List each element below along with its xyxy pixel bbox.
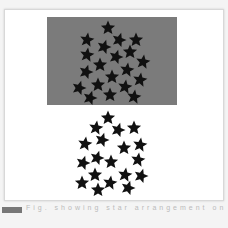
caption: Fig. showing star arrangement on and off… bbox=[0, 204, 228, 228]
star-icon bbox=[80, 65, 94, 79]
star-icon bbox=[123, 45, 137, 59]
star-icon bbox=[91, 151, 105, 165]
star-icon bbox=[101, 111, 115, 125]
star-icon bbox=[103, 176, 117, 190]
star-icon bbox=[78, 137, 92, 151]
star-icon bbox=[91, 183, 105, 197]
star-icon bbox=[89, 121, 103, 135]
star-icon bbox=[117, 141, 131, 155]
star-icon bbox=[73, 81, 87, 95]
star-icon bbox=[118, 80, 132, 94]
caption-text: Fig. showing star arrangement on and off… bbox=[26, 204, 228, 211]
star-pattern-figure bbox=[0, 0, 228, 228]
star-icon bbox=[84, 91, 98, 105]
star-icon bbox=[105, 70, 119, 84]
star-icon bbox=[120, 63, 134, 77]
star-icon bbox=[129, 33, 143, 47]
star-icon bbox=[113, 33, 127, 47]
star-icon bbox=[88, 168, 102, 182]
star-icon bbox=[127, 90, 141, 104]
caption-marker bbox=[2, 207, 22, 213]
star-icon bbox=[93, 58, 107, 72]
star-icon bbox=[96, 133, 110, 147]
star-icon bbox=[131, 153, 145, 167]
star-icon bbox=[127, 121, 141, 135]
star-icon bbox=[91, 78, 105, 92]
star-icon bbox=[133, 138, 147, 152]
star-icon bbox=[98, 40, 112, 54]
star-icon bbox=[80, 48, 94, 62]
star-icon bbox=[135, 169, 149, 183]
star-icon bbox=[112, 123, 126, 137]
star-icon bbox=[133, 73, 147, 87]
star-icon bbox=[80, 33, 94, 47]
star-icon bbox=[77, 156, 91, 170]
star-icon bbox=[104, 155, 118, 169]
star-icon bbox=[110, 50, 124, 64]
star-icon bbox=[75, 176, 89, 190]
star-icon bbox=[118, 168, 132, 182]
star-icon bbox=[101, 21, 115, 35]
star-icon bbox=[136, 55, 150, 69]
star-icon bbox=[122, 181, 136, 195]
star-icon bbox=[103, 88, 117, 102]
